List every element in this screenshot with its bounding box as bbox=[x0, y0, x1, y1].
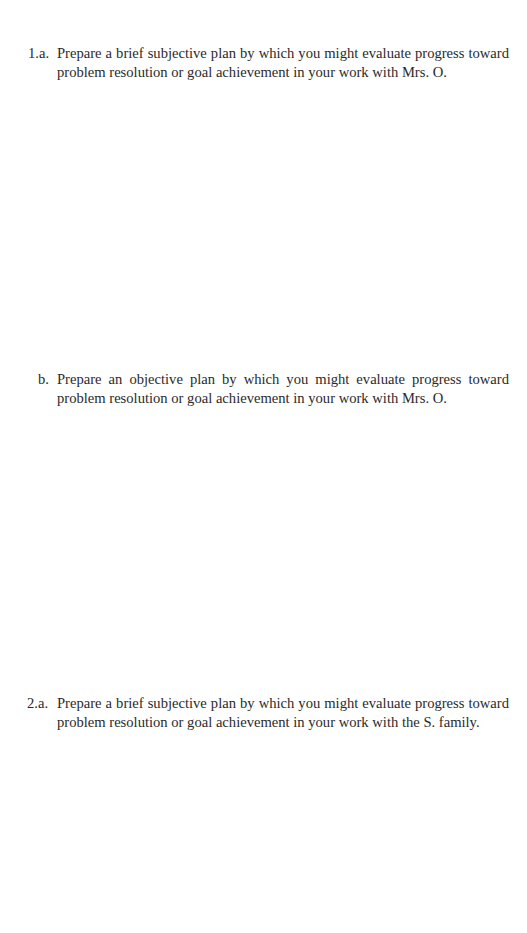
question-label: 1.a. bbox=[28, 44, 49, 63]
question-prompt: Prepare an objective plan by which you m… bbox=[57, 370, 509, 408]
question-line-2: problem resolution or goal achievement i… bbox=[57, 389, 509, 408]
question-line-2: problem resolution or goal achievement i… bbox=[57, 63, 509, 82]
answer-space-2a[interactable] bbox=[0, 740, 527, 933]
question-prompt: Prepare a brief subjective plan by which… bbox=[57, 44, 509, 82]
question-prompt: Prepare a brief subjective plan by which… bbox=[57, 694, 509, 732]
question-line-1: Prepare a brief subjective plan by which… bbox=[57, 694, 509, 713]
answer-space-1b[interactable] bbox=[0, 415, 527, 685]
answer-space-1a[interactable] bbox=[0, 90, 527, 360]
question-line-1: Prepare an objective plan by which you m… bbox=[57, 370, 509, 389]
question-line-2: problem resolution or goal achievement i… bbox=[57, 713, 509, 732]
question-label: 2.a. bbox=[27, 694, 48, 713]
question-line-1: Prepare a brief subjective plan by which… bbox=[57, 44, 509, 63]
question-label: b. bbox=[38, 370, 49, 389]
